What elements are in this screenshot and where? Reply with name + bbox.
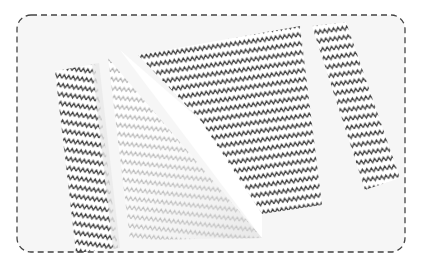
photo-scene	[0, 0, 425, 269]
